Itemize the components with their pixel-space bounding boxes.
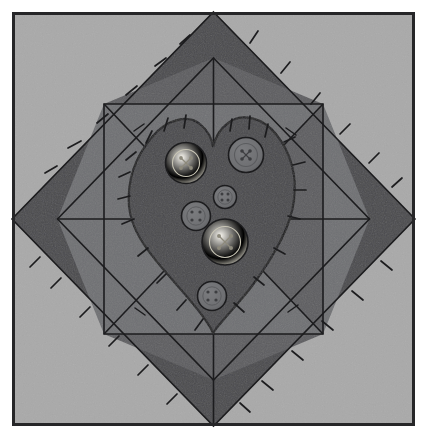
quilt-block-group [12, 12, 415, 426]
button-dark-mid-left [182, 202, 211, 231]
quilt-block-illustration: Quilt Block With Appliqued Heart A squar… [0, 0, 427, 440]
button-dark-center-small [214, 186, 237, 209]
button-cream-lower-center [202, 219, 248, 265]
button-dark-upper-right [229, 138, 264, 173]
button-disc [198, 282, 227, 311]
button-cream-upper-left [166, 143, 207, 184]
quilt-artwork-canvas: Quilt Block With Appliqued Heart A squar… [0, 0, 427, 440]
button-dark-bottom [198, 282, 227, 311]
button-disc [214, 186, 237, 209]
button-disc [182, 202, 211, 231]
